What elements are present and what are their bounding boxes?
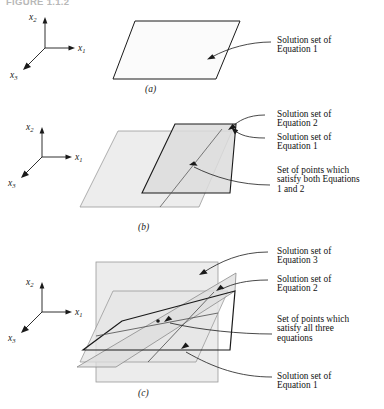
callout-satisfy-all-three-equations-c: Set of points which satisfy all three eq… [277,315,349,343]
axis-x2-arrowhead [43,17,48,24]
axis-x2-arrowhead [40,282,45,289]
panel-b: x2 x1 x3 (b) Solution set of Equation 2 … [0,105,384,240]
axis-label-x3: x3 [7,178,16,189]
axis-x1-arrowhead [66,155,73,160]
callout-solution-set-equation-2-c: Solution set of Equation 2 [277,275,331,294]
axis-x3-line [24,157,42,175]
callout-solution-set-equation-1-b: Solution set of Equation 1 [277,133,331,152]
callout-leader-b-eq1 [234,130,265,138]
callout-solution-set-equation-1-a: Solution set of Equation 1 [277,36,331,55]
plane-equation-1 [113,21,240,79]
axis-label-x2: x2 [25,277,34,288]
panel-label-c: (c) [138,388,149,398]
axis-label-x1: x1 [74,307,83,318]
axis-triad-b [21,127,72,178]
callout-solution-set-equation-1-c: Solution set of Equation 1 [277,372,331,391]
panel-c: x2 x1 x3 [0,240,384,409]
axis-label-x1: x1 [74,152,83,163]
callout-leader-b-eq2 [232,115,265,127]
axis-label-x3: x3 [9,70,18,81]
axis-label-x1: x1 [77,43,86,54]
axis-x2-arrowhead [40,127,45,134]
panel-label-b: (b) [138,222,149,232]
axis-x1-arrowhead [69,46,76,51]
figure-container: FIGURE 1.1.2 x2 x1 x3 (a) So [0,0,384,409]
panel-label-a: (a) [145,84,156,94]
callout-solution-set-equation-2-b: Solution set of Equation 2 [277,110,331,129]
axis-x1-arrowhead [66,310,73,315]
callout-satisfy-both-equations-b: Set of points which satisfy both Equatio… [277,166,360,194]
axis-triad-c [21,282,72,333]
axis-label-x3: x3 [7,333,16,344]
panel-a: x2 x1 x3 (a) Solution set of Equation 1 [0,0,384,105]
axis-x3-line [24,312,42,330]
common-solution-point [156,319,160,323]
axis-triad-a [23,17,75,70]
callout-solution-set-equation-3-c: Solution set of Equation 3 [277,247,331,266]
axis-label-x2: x2 [25,122,34,133]
axis-label-x2: x2 [28,12,37,23]
axis-x3-line [26,48,45,67]
